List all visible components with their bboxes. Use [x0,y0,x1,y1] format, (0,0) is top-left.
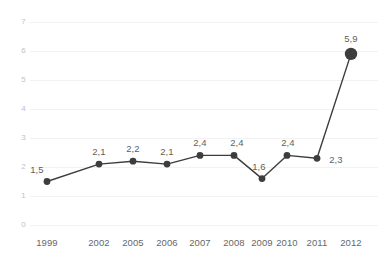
data-value-label: 2,1 [152,147,182,157]
data-point-marker[interactable] [259,175,266,182]
data-value-label: 1,6 [244,162,274,172]
data-value-label: 2,4 [273,138,303,148]
data-point-marker[interactable] [164,161,171,168]
data-value-label: 1,5 [22,165,52,175]
data-point-markers [44,48,358,185]
line-chart: 01234567 1999200220052006200720082009201… [0,0,384,266]
data-point-marker[interactable] [44,178,51,185]
gridlines [30,22,378,225]
y-axis-tick-label: 6 [12,47,26,55]
x-axis-tick-label: 1999 [27,238,67,248]
data-point-marker[interactable] [314,155,321,162]
data-point-marker[interactable] [284,152,291,159]
data-value-label: 5,9 [336,34,366,44]
y-axis-tick-label: 3 [12,134,26,142]
data-value-label: 2,1 [84,147,114,157]
chart-plot-area [0,0,384,266]
data-point-marker[interactable] [197,152,204,159]
data-point-marker[interactable] [345,48,357,60]
y-axis-tick-label: 5 [12,76,26,84]
data-point-marker[interactable] [130,158,137,165]
y-axis-tick-label: 0 [12,221,26,229]
y-axis-tick-label: 7 [12,18,26,26]
data-point-marker[interactable] [231,152,238,159]
data-point-marker[interactable] [96,161,103,168]
data-value-label: 2,3 [321,155,351,165]
series-line [47,54,351,182]
data-value-label: 2,4 [222,138,252,148]
y-axis-tick-label: 1 [12,192,26,200]
data-value-label: 2,2 [118,144,148,154]
data-value-label: 2,4 [185,138,215,148]
y-axis-tick-label: 4 [12,105,26,113]
x-axis-tick-label: 2012 [331,238,371,248]
